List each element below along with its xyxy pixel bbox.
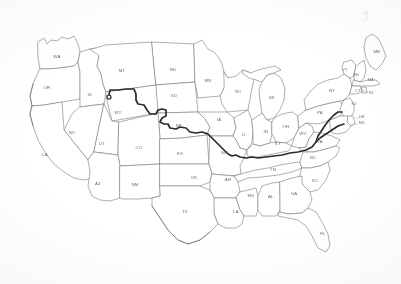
state-shape-co[interactable] <box>118 113 160 166</box>
state-label-il: IL <box>242 132 246 137</box>
state-label-ky: KY <box>275 141 281 146</box>
state-label-wv: WV <box>299 131 306 136</box>
state-shape-az[interactable] <box>88 152 120 201</box>
state-label-ct: CT <box>355 89 361 93</box>
state-label-ms: MS <box>248 193 255 198</box>
state-shape-mn[interactable] <box>194 40 228 98</box>
state-shape-or[interactable] <box>30 62 80 106</box>
state-shape-fl[interactable] <box>278 208 330 252</box>
state-label-tn: TN <box>270 167 276 172</box>
state-label-va: VA <box>317 139 323 144</box>
state-shape-nj[interactable] <box>340 98 354 118</box>
state-label-ut: UT <box>99 141 105 146</box>
state-label-al: AL <box>268 194 274 199</box>
state-label-la: LA <box>233 209 239 214</box>
state-label-ok: OK <box>191 175 198 180</box>
state-shape-tx[interactable] <box>152 186 218 244</box>
state-label-md: MD <box>359 121 365 125</box>
state-label-ma: MA <box>368 78 374 82</box>
state-label-fl: FL <box>320 231 326 236</box>
state-label-oh: OH <box>283 124 290 129</box>
state-shape-ks[interactable] <box>160 135 209 164</box>
state-label-ia: IA <box>217 117 222 122</box>
state-label-co: CO <box>136 145 143 150</box>
state-boundaries <box>30 34 386 252</box>
state-label-ny: NY <box>329 88 336 93</box>
state-label-ks: KS <box>177 151 183 156</box>
state-label-az: AZ <box>95 181 101 186</box>
state-shape-ri[interactable] <box>362 87 367 93</box>
state-label-de: DE <box>359 115 365 119</box>
state-label-wa: WA <box>53 54 60 59</box>
state-shape-nh[interactable] <box>354 60 366 82</box>
state-shape-ok[interactable] <box>160 164 212 186</box>
state-label-pa: PA <box>317 110 323 115</box>
state-label-ne: NE <box>176 123 183 128</box>
state-label-wy: WY <box>114 110 121 115</box>
state-label-nd: ND <box>170 67 177 72</box>
state-label-sc: SC <box>312 178 319 183</box>
state-label-ri: RI <box>369 91 373 95</box>
state-label-nh: NH <box>353 73 359 77</box>
state-label-id: ID <box>88 92 93 97</box>
state-label-mn: MN <box>204 78 211 83</box>
state-shape-wa[interactable] <box>38 36 80 69</box>
state-label-sd: SD <box>171 93 178 98</box>
state-label-ga: GA <box>291 191 298 196</box>
state-label-nj: NJ <box>351 102 356 106</box>
scan-artifact <box>363 10 370 22</box>
state-label-or: OR <box>44 85 51 90</box>
state-label-mo: MO <box>221 150 229 155</box>
state-label-wi: WI <box>235 89 241 94</box>
state-label-nm: NM <box>131 182 138 187</box>
map-canvas: WAORIDMTNDSDMNWIMIWYNEIAILINOHNVUTCOKSMO… <box>0 0 401 284</box>
state-label-vt: VT <box>342 68 348 72</box>
state-label-nc: NC <box>310 155 317 160</box>
state-label-me: ME <box>374 49 381 54</box>
state-shape-ma[interactable] <box>352 80 380 86</box>
state-shape-nd[interactable] <box>152 42 195 85</box>
state-label-ar: AR <box>225 177 232 182</box>
state-label-nv: NV <box>69 130 76 135</box>
state-label-in: IN <box>264 129 269 134</box>
state-label-tx: TX <box>182 209 188 214</box>
state-label-mi: MI <box>269 95 274 100</box>
state-label-mt: MT <box>119 68 126 73</box>
state-shape-nm[interactable] <box>120 164 160 199</box>
us-state-map[interactable]: WAORIDMTNDSDMNWIMIWYNEIAILINOHNVUTCOKSMO… <box>0 0 401 284</box>
state-label-ca: CA <box>42 152 49 157</box>
